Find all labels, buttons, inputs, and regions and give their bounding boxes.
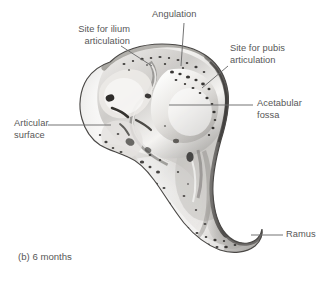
label-site-for-pubis-articulation: Site for pubis articulation <box>230 43 320 66</box>
label-acetabular-fossa: Acetabular fossa <box>257 98 327 121</box>
anatomy-figure: Site for ilium articulation Angulation S… <box>0 0 328 287</box>
label-articular-surface: Articular surface <box>14 118 74 141</box>
figure-caption: (b) 6 months <box>18 251 72 263</box>
label-site-for-ilium-articulation: Site for ilium articulation <box>44 24 130 47</box>
label-ramus: Ramus <box>286 229 328 241</box>
bone-body <box>70 36 280 261</box>
label-angulation: Angulation <box>152 9 222 21</box>
